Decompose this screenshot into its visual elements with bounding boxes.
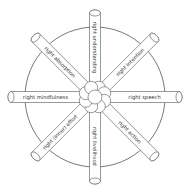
spoke-label-action: right action [117, 119, 143, 145]
spoke-end-cap [176, 92, 182, 103]
spoke-speech: right speech [109, 92, 182, 103]
spoke-action: right action [101, 103, 160, 162]
spoke-label-effort: right (inner) effort [41, 113, 79, 151]
spoke-end-cap [90, 10, 101, 16]
spoke-label-intention: right intention [115, 47, 146, 78]
spoke-label-speech: right speech [128, 94, 160, 101]
spoke-livelihood: right livelihood [90, 111, 101, 184]
spoke-end-cap [8, 92, 14, 103]
spoke-understanding: right understanding [90, 10, 101, 83]
spoke-intention: right intention [101, 32, 160, 91]
spoke-label-livelihood: right livelihood [91, 127, 98, 166]
spoke-end-cap [90, 178, 101, 184]
spoke-effort: right (inner) effort [30, 103, 89, 162]
hub-center [88, 90, 102, 104]
eightfold-path-wheel: right understandingright intentionright … [0, 0, 190, 194]
spoke-absorption: right absorption [30, 32, 89, 91]
spoke-label-mindfulness: right mindfulness [23, 94, 69, 101]
spoke-label-understanding: right understanding [91, 22, 98, 74]
spoke-label-absorption: right absorption [42, 45, 76, 79]
spoke-mindfulness: right mindfulness [8, 92, 81, 103]
